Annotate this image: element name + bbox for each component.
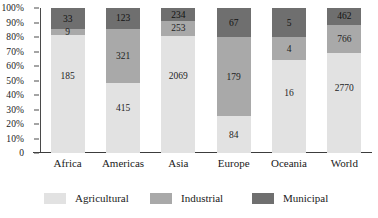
stacked-bar-chart: 100%90%80%70%60%50%40%30%20%10%0 3391851… (0, 0, 378, 218)
legend-label: Municipal (283, 191, 328, 205)
bar-segment-municipal: 67 (217, 8, 251, 37)
y-axis-tick-label: 90% (6, 18, 24, 28)
bar-value-label: 415 (116, 103, 130, 113)
bar-column: 2342532069 (161, 8, 195, 153)
bar-value-label: 462 (337, 11, 351, 21)
bar-value-label: 9 (65, 27, 70, 37)
x-axis-tick-label: World (317, 156, 372, 170)
bar-segment-agricultural: 84 (217, 116, 251, 153)
bar-segment-municipal: 5 (272, 8, 306, 37)
bar-value-label: 2770 (335, 83, 354, 93)
bar-value-label: 253 (171, 23, 185, 33)
y-axis-tick-mark (34, 37, 39, 38)
y-axis-tick-label: 100% (1, 3, 24, 13)
y-axis-tick-mark (34, 80, 39, 81)
y-axis-tick-label: 80% (6, 32, 24, 42)
y-axis-tick-label: 0 (19, 148, 24, 158)
x-axis-tick-label: Europe (206, 156, 261, 170)
bar-value-label: 16 (284, 88, 294, 98)
bar-segment-municipal: 33 (51, 8, 85, 29)
y-axis-tick-mark (34, 8, 39, 9)
legend-swatch-municipal (252, 193, 274, 204)
legend-label: Industrial (181, 191, 223, 205)
bar-column: 6717984 (217, 8, 251, 153)
legend-swatch-industrial (150, 193, 172, 204)
bar-segment-industrial: 253 (161, 21, 195, 35)
y-axis-tick-mark (34, 22, 39, 23)
bar-segment-agricultural: 16 (272, 60, 306, 153)
bar-column: 339185 (51, 8, 85, 153)
y-axis-tick-mark (34, 124, 39, 125)
y-axis-tick-mark (34, 66, 39, 67)
x-axis: AfricaAmericasAsiaEuropeOceaniaWorld (40, 156, 372, 172)
bar-value-label: 766 (337, 34, 351, 44)
x-axis-tick-label: Americas (95, 156, 150, 170)
legend-item-municipal[interactable]: Municipal (252, 190, 328, 206)
bar-segment-industrial: 4 (272, 37, 306, 60)
y-axis-tick-mark (34, 51, 39, 52)
legend-swatch-agricultural (44, 193, 66, 204)
legend-label: Agricultural (75, 191, 129, 205)
bar-value-label: 123 (116, 13, 130, 23)
y-axis-tick-label: 20% (6, 119, 24, 129)
bar-segment-agricultural: 2069 (161, 36, 195, 153)
bar-value-label: 4 (287, 44, 292, 54)
bar-value-label: 67 (229, 18, 239, 28)
y-axis-tick-label: 40% (6, 90, 24, 100)
x-axis-tick-label: Africa (40, 156, 95, 170)
y-axis-tick-mark (34, 138, 39, 139)
x-axis-tick-label: Asia (151, 156, 206, 170)
bar-value-label: 185 (61, 71, 75, 81)
bar-value-label: 2069 (169, 71, 188, 81)
bar-segment-agricultural: 2770 (327, 53, 361, 153)
chart-legend: AgriculturalIndustrialMunicipal (0, 190, 378, 210)
y-axis-tick-label: 10% (6, 134, 24, 144)
bar-segment-industrial: 179 (217, 37, 251, 116)
bar-segment-municipal: 462 (327, 8, 361, 25)
legend-item-industrial[interactable]: Industrial (150, 190, 223, 206)
bar-segment-agricultural: 415 (106, 83, 140, 153)
y-axis-tick-label: 30% (6, 105, 24, 115)
y-axis-tick-label: 50% (6, 76, 24, 86)
bar-segment-municipal: 123 (106, 8, 140, 29)
y-axis-tick-mark (34, 95, 39, 96)
bar-segment-municipal: 234 (161, 8, 195, 21)
bar-value-label: 179 (227, 72, 241, 82)
bar-segment-industrial: 321 (106, 29, 140, 83)
y-axis-tick-label: 60% (6, 61, 24, 71)
bar-segment-agricultural: 185 (51, 35, 85, 153)
y-axis-tick-mark (34, 109, 39, 110)
plot-area: 3391851233214152342532069671798454164627… (40, 8, 372, 153)
bar-column: 123321415 (106, 8, 140, 153)
y-axis-tick-mark (34, 153, 39, 154)
bar-value-label: 321 (116, 51, 130, 61)
y-axis-tick-label: 70% (6, 47, 24, 57)
bar-segment-industrial: 766 (327, 25, 361, 53)
bar-value-label: 5 (287, 18, 292, 28)
bar-value-label: 84 (229, 130, 239, 140)
legend-item-agricultural[interactable]: Agricultural (44, 190, 129, 206)
y-axis: 100%90%80%70%60%50%40%30%20%10%0 (0, 8, 33, 153)
bar-column: 5416 (272, 8, 306, 153)
bar-value-label: 33 (63, 14, 73, 24)
bar-value-label: 234 (171, 10, 185, 20)
x-axis-tick-label: Oceania (261, 156, 316, 170)
bar-column: 4627662770 (327, 8, 361, 153)
